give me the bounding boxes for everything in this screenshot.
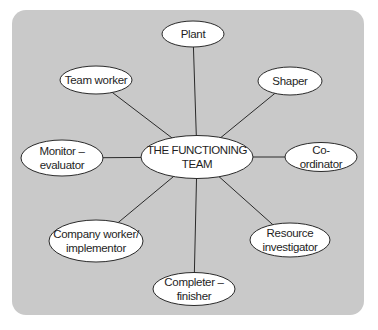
node-co-ordinator-label: Co-ordinator <box>293 143 350 171</box>
node-resource-investigator-label: Resource investigator <box>262 226 317 254</box>
center-node-label: THE FUNCTIONING TEAM <box>147 143 247 171</box>
node-plant-label: Plant <box>181 27 206 41</box>
node-completer-finisher-label: Completer – finisher <box>164 275 223 303</box>
node-shaper-label: Shaper <box>272 74 307 88</box>
node-company-worker-implementor-label: Company worker/ implementor <box>53 227 139 255</box>
node-monitor-evaluator-label: Monitor – evaluator <box>39 144 84 172</box>
node-team-worker-label: Team worker <box>65 73 128 87</box>
